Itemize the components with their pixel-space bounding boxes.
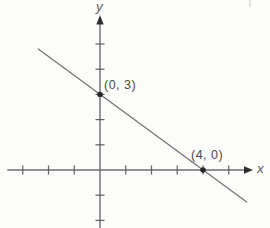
y-intercept-point-label: (0, 3) (104, 78, 136, 92)
x-axis-label: x (257, 161, 264, 176)
plot-canvas (0, 0, 270, 228)
scan-artifact-mark (249, 0, 251, 7)
x-intercept-point-label: (4, 0) (191, 148, 223, 162)
coordinate-plane-figure: (0, 3) (4, 0) x y (0, 0, 270, 228)
y-axis-label: y (96, 0, 103, 14)
